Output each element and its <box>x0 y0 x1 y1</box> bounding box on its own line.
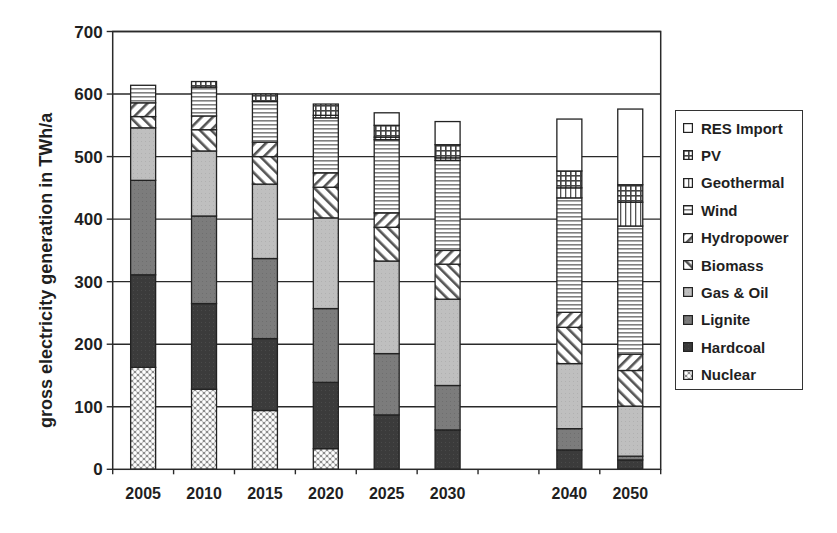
bar-segment-pv <box>618 185 643 203</box>
bar-segment-lignite <box>313 309 338 383</box>
bar-segment-hydropower <box>618 354 643 370</box>
bar-segment-pv <box>192 82 217 88</box>
bar-segment-gas-oil <box>131 128 156 181</box>
y-tick-label: 200 <box>74 335 102 354</box>
bar-segment-wind <box>435 160 460 250</box>
x-tick-label: 2040 <box>552 485 588 502</box>
bar-segment-lignite <box>131 180 156 274</box>
bar-segment-biomass <box>618 370 643 406</box>
legend-swatch-icon <box>683 260 693 270</box>
bar-segment-lignite <box>557 429 582 450</box>
x-tick-label: 2015 <box>247 485 283 502</box>
x-tick-label: 2020 <box>308 485 344 502</box>
legend-item-geothermal: Geothermal <box>683 170 784 196</box>
bar-segment-pv <box>252 94 277 102</box>
bar-segment-hardcoal <box>435 430 460 469</box>
legend-label: Nuclear <box>701 366 756 383</box>
y-tick-label: 400 <box>74 210 102 229</box>
bar-segment-geothermal <box>618 202 643 226</box>
bar-segment-gas-oil <box>618 406 643 456</box>
legend-label: Wind <box>701 202 738 219</box>
bar-segment-hydropower <box>192 116 217 130</box>
bar-segment-wind <box>374 140 399 213</box>
bar-segment-gas-oil <box>374 261 399 354</box>
stacked-bar-chart: 0100200300400500600700200520102015202020… <box>0 0 837 533</box>
bar-segment-hydropower <box>557 312 582 327</box>
bar-segment-nuclear <box>252 411 277 470</box>
bar-segment-wind <box>252 102 277 143</box>
bar-segment-lignite <box>192 216 217 304</box>
bar-segment-geothermal <box>557 188 582 198</box>
bar-segment-hydropower <box>374 213 399 227</box>
bar-2020 <box>313 104 338 469</box>
bar-segment-lignite <box>435 385 460 429</box>
bar-segment-biomass <box>374 227 399 261</box>
x-tick-label: 2010 <box>186 485 222 502</box>
y-tick-label: 500 <box>74 148 102 167</box>
x-tick-label: 2025 <box>369 485 405 502</box>
bar-segment-hydropower <box>435 250 460 264</box>
bar-segment-wind <box>131 85 156 103</box>
legend-item-lignite: Lignite <box>683 307 750 333</box>
legend-item-hydropower: Hydropower <box>683 225 789 251</box>
bar-segment-biomass <box>313 187 338 218</box>
bar-segment-wind <box>192 87 217 116</box>
bar-segment-res-import <box>374 113 399 126</box>
legend-swatch-icon <box>683 287 693 297</box>
bar-segment-hydropower <box>252 142 277 156</box>
legend-item-gas-oil: Gas & Oil <box>683 279 769 305</box>
y-tick-label: 100 <box>74 398 102 417</box>
bar-2040 <box>557 119 582 469</box>
bar-segment-pv <box>557 171 582 188</box>
bar-segment-gas-oil <box>557 364 582 429</box>
bar-segment-biomass <box>192 130 217 151</box>
bar-segment-gas-oil <box>435 299 460 385</box>
bar-segment-biomass <box>435 264 460 299</box>
x-tick-label: 2030 <box>430 485 466 502</box>
legend-item-res-import: RES Import <box>683 115 783 141</box>
bar-segment-wind <box>557 198 582 312</box>
legend-label: Biomass <box>701 257 764 274</box>
legend-item-biomass: Biomass <box>683 252 764 278</box>
bar-segment-pv <box>435 145 460 158</box>
bar-segment-hydropower <box>313 173 338 187</box>
bar-segment-gas-oil <box>252 184 277 258</box>
bar-segment-hardcoal <box>374 415 399 469</box>
legend-item-nuclear: Nuclear <box>683 362 756 388</box>
bar-segment-hardcoal <box>192 304 217 390</box>
y-tick-label: 600 <box>74 85 102 104</box>
bar-segment-hardcoal <box>252 339 277 411</box>
bar-2015 <box>252 94 277 469</box>
legend-label: Lignite <box>701 311 750 328</box>
bar-segment-res-import <box>618 109 643 185</box>
legend-swatch-icon <box>683 315 693 325</box>
bar-2010 <box>192 82 217 470</box>
bar-segment-res-import <box>557 119 582 171</box>
bar-segment-pv <box>313 104 338 115</box>
legend-label: Geothermal <box>701 174 784 191</box>
bar-segment-gas-oil <box>192 151 217 216</box>
y-tick-label: 700 <box>74 23 102 42</box>
bar-segment-biomass <box>557 327 582 363</box>
bar-segment-res-import <box>435 122 460 145</box>
bar-segment-lignite <box>252 259 277 339</box>
legend-item-pv: PV <box>683 142 721 168</box>
legend-label: PV <box>701 147 721 164</box>
bar-segment-hardcoal <box>618 460 643 469</box>
bar-segment-hardcoal <box>313 382 338 448</box>
legend-label: Gas & Oil <box>701 284 769 301</box>
bar-segment-wind <box>313 118 338 173</box>
legend-swatch-icon <box>683 342 693 352</box>
y-tick-label: 300 <box>74 273 102 292</box>
legend-swatch-icon <box>683 233 693 243</box>
bar-segment-biomass <box>131 117 156 128</box>
legend-label: Hydropower <box>701 229 789 246</box>
bar-2025 <box>374 113 399 469</box>
legend-swatch-icon <box>683 205 693 215</box>
legend-swatch-icon <box>683 150 693 160</box>
bar-2030 <box>435 122 460 470</box>
x-tick-label: 2050 <box>612 485 648 502</box>
legend-swatch-icon <box>683 123 693 133</box>
x-tick-label: 2005 <box>125 485 161 502</box>
bar-segment-wind <box>618 226 643 354</box>
